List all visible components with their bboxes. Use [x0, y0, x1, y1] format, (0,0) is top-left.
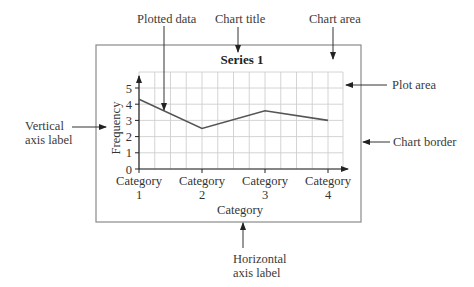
- x-tick-number: 1: [136, 188, 142, 202]
- x-tick-number: 4: [325, 188, 332, 202]
- y-tick-label: 1: [126, 146, 132, 160]
- x-tick-number: 3: [262, 188, 268, 202]
- x-tick-label: Category: [116, 174, 163, 188]
- x-tick-label: Category: [179, 174, 226, 188]
- x-tick-label: Category: [305, 174, 352, 188]
- y-tick-label: 3: [126, 114, 132, 128]
- horizontal-axis-label-line2: axis label: [233, 266, 286, 280]
- y-tick-label: 5: [126, 82, 132, 96]
- y-tick-label: 2: [126, 130, 132, 144]
- chart-border-annotation: Chart border: [393, 135, 457, 149]
- chart-title: Series 1: [221, 52, 264, 67]
- chart-title-annotation: Chart title: [215, 12, 265, 26]
- horizontal-axis-label-annotation: Horizontal axis label: [233, 252, 286, 280]
- vertical-axis-label-line1: Vertical: [25, 119, 73, 133]
- x-tick-label: Category: [242, 174, 289, 188]
- x-tick-number: 2: [199, 188, 205, 202]
- plotted-data-annotation: Plotted data: [137, 12, 196, 26]
- chart-area-annotation: Chart area: [309, 12, 361, 26]
- horizontal-axis-label-line1: Horizontal: [233, 252, 286, 266]
- y-axis-label: Frequency: [109, 101, 123, 155]
- vertical-axis-label-line2: axis label: [25, 133, 73, 147]
- plot-area-annotation: Plot area: [392, 78, 436, 92]
- x-axis-label: Category: [217, 203, 264, 217]
- y-tick-label: 4: [126, 98, 133, 112]
- vertical-axis-label-annotation: Vertical axis label: [25, 119, 73, 147]
